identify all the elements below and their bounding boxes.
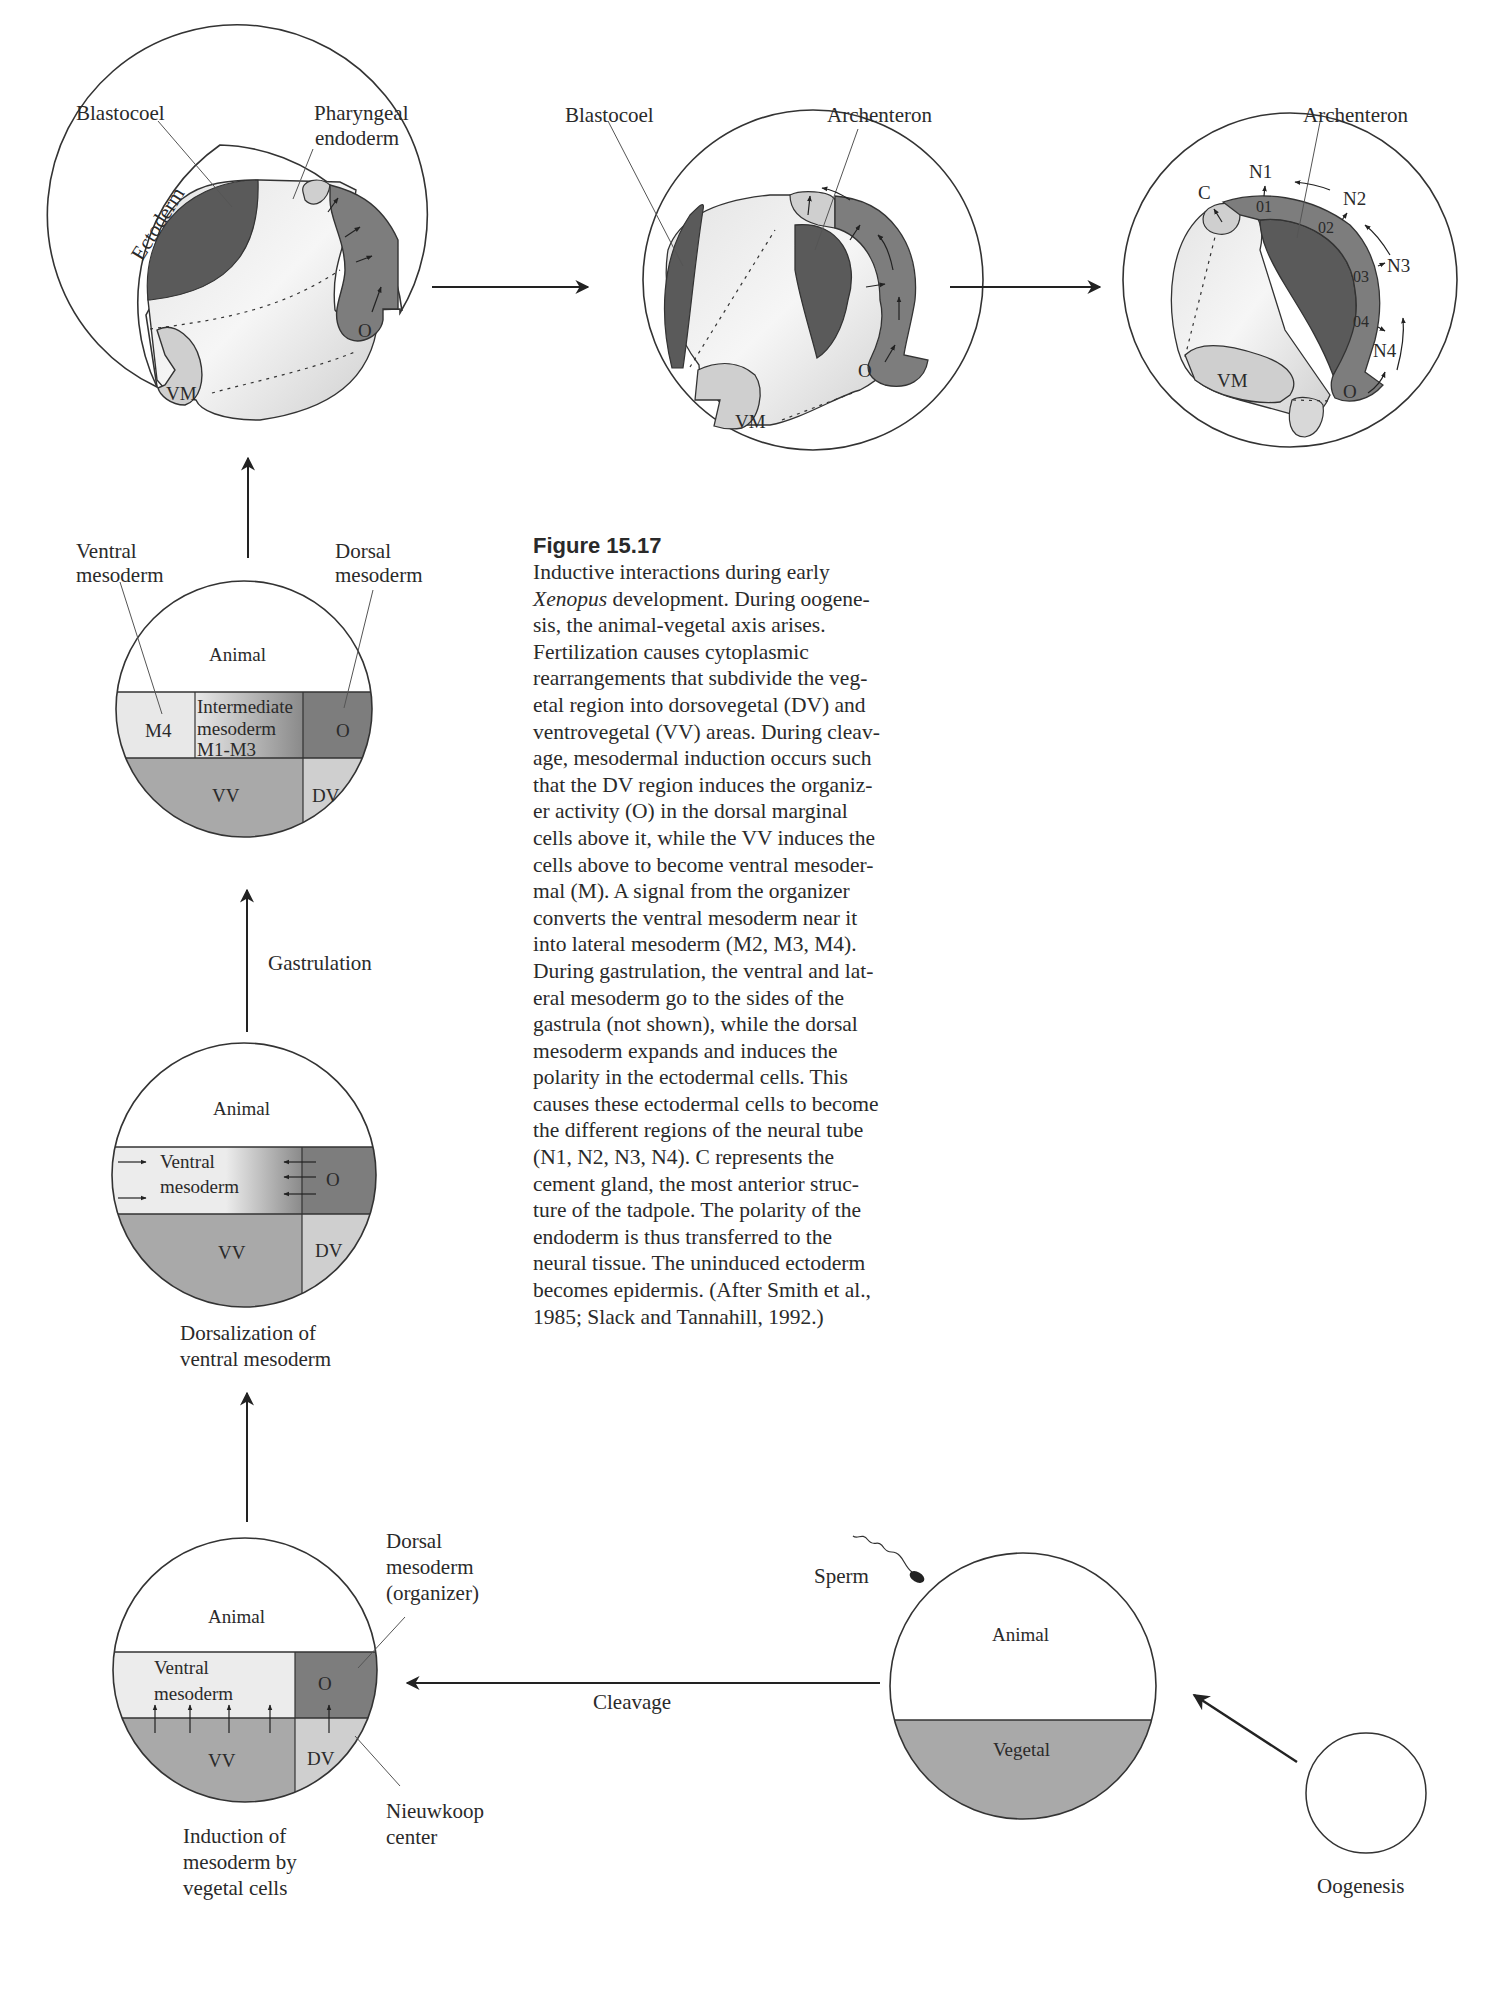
label-o2: 02 — [1318, 219, 1334, 236]
label-dorsal-ind: Dorsal — [386, 1529, 442, 1553]
caption-line: neural tissue. The uninduced ectoderm — [533, 1250, 973, 1277]
label-dorsal-mesoderm-ind: mesoderm — [386, 1555, 473, 1579]
label-mesoderm-dors: mesoderm — [160, 1176, 239, 1197]
caption-line: the different regions of the neural tube — [533, 1117, 973, 1144]
caption-line: that the DV region induces the organiz- — [533, 772, 973, 799]
label-animal-egg: Animal — [992, 1624, 1049, 1645]
caption-induction-1: Induction of — [183, 1824, 286, 1848]
caption-line: mesoderm expands and induces the — [533, 1038, 973, 1065]
label-blastocoel-mid: Blastocoel — [565, 103, 654, 127]
oocyte: Oogenesis — [1306, 1733, 1426, 1898]
caption-line: causes these ectodermal cells to become — [533, 1091, 973, 1118]
label-animal-ind: Animal — [208, 1606, 265, 1627]
label-n3: N3 — [1387, 255, 1410, 276]
label-vm: VM — [166, 383, 197, 404]
label-vm-mid: VM — [735, 411, 766, 432]
label-dv-dors: DV — [315, 1240, 343, 1261]
caption-line: polarity in the ectodermal cells. This — [533, 1064, 973, 1091]
label-archenteron-late: Archenteron — [1303, 103, 1408, 127]
caption-line: mal (M). A signal from the organizer — [533, 878, 973, 905]
late-gastrula: Archenteron C N1 N2 N3 N4 01 02 03 04 VM… — [1123, 103, 1457, 447]
label-o-late: O — [1343, 381, 1357, 402]
caption-line: cells above to become ventral mesoder- — [533, 852, 973, 879]
label-gastrulation: Gastrulation — [268, 951, 372, 975]
label-vv-ind: VV — [208, 1750, 236, 1771]
label-vv-dors: VV — [218, 1242, 246, 1263]
caption-line: cement gland, the most anterior struc- — [533, 1171, 973, 1198]
caption-line: (N1, N2, N3, N4). C represents the — [533, 1144, 973, 1171]
label-vegetal: Vegetal — [993, 1739, 1050, 1760]
label-archenteron-mid: Archenteron — [827, 103, 932, 127]
label-dv-ind: DV — [307, 1748, 335, 1769]
label-o-blastula: O — [336, 720, 350, 741]
caption-line: Xenopus development. During oogene- — [533, 586, 973, 613]
caption-line: 1985; Slack and Tannahill, 1992.) — [533, 1304, 973, 1331]
label-sperm: Sperm — [814, 1564, 869, 1588]
early-gastrula: Blastocoel Pharyngeal endoderm Ectoderm … — [47, 25, 427, 420]
caption-line: sis, the animal-vegetal axis arises. — [533, 612, 973, 639]
figure-15-17: Blastocoel Pharyngeal endoderm Ectoderm … — [0, 0, 1502, 2013]
label-n4: N4 — [1373, 340, 1397, 361]
label-blastocoel: Blastocoel — [76, 101, 165, 125]
blastula-regions: Ventral mesoderm Dorsal mesoderm Animal … — [76, 539, 422, 850]
label-nieuwkoop: Nieuwkoop — [386, 1799, 484, 1823]
label-animal: Animal — [209, 644, 266, 665]
label-ventral-mesoderm: mesoderm — [76, 563, 163, 587]
figure-caption: Figure 15.17 Inductive interactions duri… — [533, 533, 973, 1330]
label-mesoderm-ind: mesoderm — [154, 1683, 233, 1704]
label-intermediate-mesoderm: mesoderm — [197, 718, 276, 739]
caption-line: Inductive interactions during early — [533, 559, 973, 586]
caption-line: rearrangements that subdivide the veg- — [533, 665, 973, 692]
caption-dorsalization-2: ventral mesoderm — [180, 1347, 331, 1371]
caption-line: ventrovegetal (VV) areas. During cleav- — [533, 719, 973, 746]
figure-number: Figure 15.17 — [533, 533, 973, 559]
caption-line: During gastrulation, the ventral and lat… — [533, 958, 973, 985]
caption-line: cells above it, while the VV induces the — [533, 825, 973, 852]
label-n2: N2 — [1343, 188, 1366, 209]
mid-gastrula: Blastocoel Archenteron VM O — [565, 103, 983, 450]
label-ventral: Ventral — [76, 539, 137, 563]
caption-line: converts the ventral mesoderm near it — [533, 905, 973, 932]
label-ventral-dors: Ventral — [160, 1151, 215, 1172]
label-o3: 03 — [1353, 268, 1369, 285]
label-organizer: (organizer) — [386, 1581, 479, 1605]
label-o-mid: O — [858, 360, 872, 381]
label-cleavage: Cleavage — [593, 1690, 671, 1714]
caption-line: Fertilization causes cytoplasmic — [533, 639, 973, 666]
caption-dorsalization-1: Dorsalization of — [180, 1321, 316, 1345]
label-nieuwkoop-center: center — [386, 1825, 437, 1849]
caption-line: becomes epidermis. (After Smith et al., — [533, 1277, 973, 1304]
caption-line: er activity (O) in the dorsal marginal — [533, 798, 973, 825]
caption-induction-3: vegetal cells — [183, 1876, 287, 1900]
label-o: O — [358, 320, 372, 341]
caption-oogenesis: Oogenesis — [1317, 1874, 1405, 1898]
label-m1-m3: M1-M3 — [197, 739, 256, 760]
label-vv: VV — [212, 785, 240, 806]
label-o-ind: O — [318, 1673, 332, 1694]
label-dv: DV — [312, 785, 340, 806]
label-animal-dors: Animal — [213, 1098, 270, 1119]
caption-line: eral mesoderm go to the sides of the — [533, 985, 973, 1012]
induction-stage: Animal Ventral mesoderm O VV DV Dorsal m… — [112, 1529, 484, 1900]
caption-induction-2: mesoderm by — [183, 1850, 297, 1874]
label-pharyngeal: Pharyngeal — [314, 101, 409, 125]
label-c: C — [1198, 182, 1211, 203]
label-n1: N1 — [1249, 161, 1272, 182]
label-o-dors: O — [326, 1169, 340, 1190]
caption-line: ture of the tadpole. The polarity of the — [533, 1197, 973, 1224]
caption-line: etal region into dorsovegetal (DV) and — [533, 692, 973, 719]
caption-line: into lateral mesoderm (M2, M3, M4). — [533, 931, 973, 958]
caption-line: age, mesodermal induction occurs such — [533, 745, 973, 772]
label-dorsal-mesoderm: mesoderm — [335, 563, 422, 587]
label-m4: M4 — [145, 720, 172, 741]
label-vm-late: VM — [1217, 370, 1248, 391]
label-endoderm: endoderm — [315, 126, 399, 150]
label-o4: 04 — [1353, 313, 1369, 330]
label-intermediate: Intermediate — [197, 696, 293, 717]
dorsalization-stage: Animal Ventral mesoderm O VV DV Dorsaliz… — [112, 1043, 376, 1371]
arrow-oogenesis — [1194, 1695, 1297, 1762]
label-dorsal: Dorsal — [335, 539, 391, 563]
caption-line: endoderm is thus transferred to the — [533, 1224, 973, 1251]
caption-line: gastrula (not shown), while the dorsal — [533, 1011, 973, 1038]
label-o1: 01 — [1256, 198, 1272, 215]
